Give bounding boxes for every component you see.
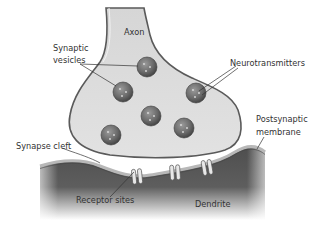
label-axon: Axon (124, 27, 144, 37)
label-dendrite: Dendrite (195, 199, 231, 209)
synapse-diagram: Axon Synaptic vesicles Neurotransmitters… (0, 0, 309, 229)
label-postsynaptic-line2: membrane (256, 127, 301, 137)
vesicle-icon (174, 118, 194, 138)
label-postsynaptic-line1: Postsynaptic (256, 114, 308, 124)
vesicle-icon (113, 82, 133, 102)
vesicle-icon (186, 83, 206, 103)
vesicle-icon (101, 125, 121, 145)
label-synaptic-vesicles-line2: vesicles (53, 55, 86, 65)
label-neurotransmitters: Neurotransmitters (230, 58, 305, 68)
label-receptor-sites: Receptor sites (76, 195, 134, 205)
label-synapse-cleft: Synapse cleft (16, 141, 72, 151)
vesicle-icon (141, 106, 161, 126)
vesicle-icon (137, 57, 157, 77)
label-synaptic-vesicles-line1: Synaptic (53, 43, 88, 53)
axon-terminal (69, 8, 241, 158)
